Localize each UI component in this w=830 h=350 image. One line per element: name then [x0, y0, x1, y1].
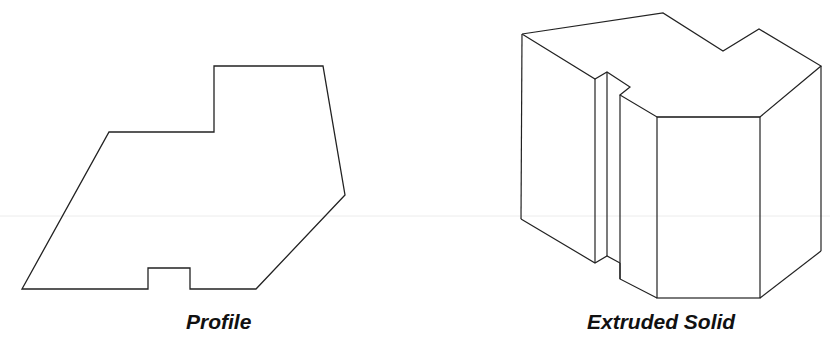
solid-step-bottom [620, 263, 657, 298]
solid-front-face [657, 117, 760, 298]
solid-left-bottom [521, 219, 620, 263]
diagram-canvas [0, 0, 830, 350]
extruded-solid [521, 13, 821, 298]
solid-left-vertical [521, 34, 522, 219]
extruded-solid-caption: Extruded Solid [587, 310, 735, 334]
solid-top-edge [522, 13, 821, 117]
profile-outline [22, 66, 345, 289]
profile-caption: Profile [186, 310, 251, 334]
solid-right-bottom [760, 251, 821, 298]
